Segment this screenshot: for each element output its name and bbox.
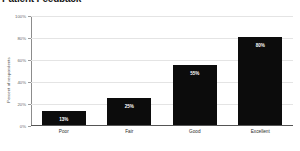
bar-chart: Percent of respondents 0%20%40%60%80%100… [0,8,300,151]
y-tick-label: 0% [20,124,26,129]
y-tick-label: 60% [17,58,26,63]
bar: 80% [238,37,282,125]
x-axis-category-label: Excellent [251,129,270,134]
y-tick-label: 100% [15,14,26,19]
bar-group: 80%Excellent [238,37,282,125]
bar-value-label: 80% [238,43,282,48]
y-tick-label: 80% [17,36,26,41]
x-axis-category-label: Fair [125,129,133,134]
bar-group: 55%Good [173,65,217,126]
bar-group: 25%Fair [107,98,151,126]
y-axis-line [31,16,32,126]
bar-value-label: 25% [107,104,151,109]
y-tick-mark [28,104,31,105]
y-axis-title: Percent of respondents [6,57,11,103]
bar-value-label: 13% [42,117,86,122]
gridline [31,16,293,17]
y-tick-mark [28,126,31,127]
y-tick-label: 20% [17,102,26,107]
y-tick-mark [28,60,31,61]
y-tick-mark [28,16,31,17]
y-tick-mark [28,38,31,39]
chart-title: Patient Feedback [2,0,81,4]
bar-value-label: 55% [173,71,217,76]
y-tick-mark [28,82,31,83]
plot-area: 0%20%40%60%80%100% 13%Poor25%Fair55%Good… [31,16,293,126]
x-axis-line [31,125,293,126]
x-axis-category-label: Good [189,129,200,134]
bar: 25% [107,98,151,126]
x-axis-category-label: Poor [59,129,69,134]
bar: 13% [42,111,86,125]
bar: 55% [173,65,217,126]
bar-group: 13%Poor [42,111,86,125]
y-tick-label: 40% [17,80,26,85]
